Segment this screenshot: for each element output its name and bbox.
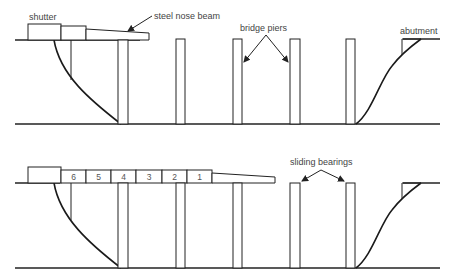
arrow-bearing-right (321, 170, 344, 181)
top-pier-5 (346, 39, 355, 124)
segment-label-3: 3 (147, 172, 152, 182)
bottom-pier-1 (118, 183, 128, 268)
bottom-shutter (28, 167, 61, 183)
top-pier-1 (118, 40, 128, 124)
bottom-pier-2 (176, 183, 185, 268)
top-left-bank (54, 40, 121, 124)
segment-label-5: 5 (96, 172, 101, 182)
label-sliding-bearings: sliding bearings (290, 157, 353, 167)
bottom-pier-4 (290, 183, 300, 268)
label-steel-nose-beam: steel nose beam (154, 11, 220, 21)
segment-label-4: 4 (121, 172, 126, 182)
deck-segments: 6 5 4 3 2 1 (61, 170, 212, 183)
arrow-nose-beam (128, 16, 152, 31)
top-right-bank (356, 39, 421, 124)
segment-label-2: 2 (172, 172, 177, 182)
top-steel-nose-beam (86, 29, 149, 40)
top-pier-2 (176, 39, 185, 124)
bottom-right-bank (356, 183, 421, 268)
label-bridge-piers: bridge piers (240, 23, 288, 33)
arrow-pier-left (244, 35, 266, 62)
bottom-pier-5 (346, 183, 355, 268)
launching-diagram: shutter steel nose beam bridge piers abu… (0, 0, 458, 279)
segment-label-1: 1 (197, 172, 202, 182)
top-shutter (28, 24, 61, 40)
top-pier-4 (290, 39, 300, 124)
label-abutment: abutment (400, 26, 438, 36)
top-panel: shutter steel nose beam bridge piers abu… (15, 11, 440, 124)
bottom-panel: 6 5 4 3 2 1 sliding bearings (15, 157, 440, 268)
label-shutter: shutter (29, 12, 57, 22)
segment-label-6: 6 (71, 172, 76, 182)
bottom-steel-nose-beam (212, 173, 275, 183)
bottom-left-bank (54, 183, 121, 268)
top-deck-segment (61, 26, 86, 40)
bottom-pier-3 (233, 183, 242, 268)
top-pier-3 (233, 39, 242, 124)
arrow-bearing-left (302, 170, 321, 181)
arrow-pier-right (266, 35, 288, 62)
